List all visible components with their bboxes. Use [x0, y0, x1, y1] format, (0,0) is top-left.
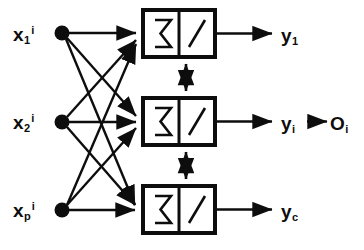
input-label-x1-base: x	[13, 24, 24, 45]
input-node-xp	[55, 203, 70, 218]
output-label-yi-base: y	[281, 113, 292, 134]
final-output-label-oi: Oi	[330, 114, 348, 135]
input-label-xp-subscript: p	[24, 210, 31, 222]
neural-network-diagram: x1i x2i xpi y1 yi Oi yc	[0, 0, 364, 250]
unit-c-box	[143, 186, 272, 233]
input-label-x2: x2i	[13, 113, 34, 134]
synapse-group	[66, 33, 136, 210]
input-label-xp: xpi	[13, 201, 35, 222]
input-label-x2-base: x	[13, 112, 24, 133]
input-label-x1-superscript: i	[30, 24, 34, 36]
output-label-yc: yc	[281, 202, 298, 223]
unit-i-box	[143, 98, 327, 145]
input-label-xp-superscript: i	[31, 200, 35, 212]
input-node-x1	[55, 26, 70, 41]
input-label-x2-subscript: 2	[24, 122, 31, 134]
input-label-x2-superscript: i	[30, 112, 34, 124]
network-canvas	[0, 0, 364, 250]
final-output-label-oi-base: O	[330, 113, 345, 134]
output-label-y1-base: y	[281, 25, 292, 46]
output-label-yc-subscript: c	[292, 211, 299, 223]
output-label-yc-base: y	[281, 201, 292, 222]
input-label-x1: x1i	[13, 25, 34, 46]
input-label-x1-subscript: 1	[24, 34, 31, 46]
output-label-yi-subscript: i	[292, 123, 296, 135]
unit-1-box	[143, 10, 272, 57]
input-node-x2	[55, 115, 70, 130]
output-label-y1-subscript: 1	[292, 35, 299, 47]
output-label-y1: y1	[281, 26, 298, 47]
output-label-yi: yi	[281, 114, 295, 135]
final-output-label-oi-subscript: i	[345, 123, 349, 135]
input-node-group	[55, 26, 70, 218]
input-label-xp-base: x	[13, 200, 24, 221]
